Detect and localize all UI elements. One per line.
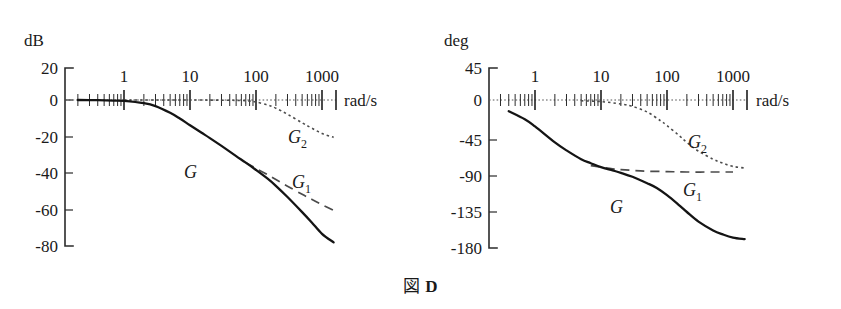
phase-curve-g2 bbox=[581, 101, 744, 168]
phase-xtick-label-1: 1 bbox=[531, 67, 540, 86]
magnitude-xtick-label-100: 100 bbox=[243, 67, 269, 86]
magnitude-curve-g1 bbox=[246, 163, 334, 211]
phase-plot-panel: deg 45 0 -45 -90 -135 -180 1 10 100 1000 bbox=[420, 0, 840, 280]
phase-xtick-label-1000: 1000 bbox=[716, 67, 750, 86]
magnitude-ytick-label-m40: -40 bbox=[35, 164, 58, 183]
phase-ytick-label-m45: -45 bbox=[459, 131, 482, 150]
phase-y-axis bbox=[489, 68, 497, 248]
magnitude-label-g2: G2 bbox=[288, 127, 307, 151]
magnitude-plot-panel: dB 20 0 -20 -40 -60 -80 1 10 100 1000 bbox=[0, 0, 420, 280]
magnitude-ytick-label-0: 0 bbox=[50, 91, 59, 110]
magnitude-label-g1: G1 bbox=[292, 172, 311, 196]
magnitude-x-unit-label: rad/s bbox=[344, 91, 377, 110]
magnitude-y-ticks bbox=[65, 100, 73, 210]
phase-ytick-label-0: 0 bbox=[474, 91, 483, 110]
phase-x-unit-label: rad/s bbox=[756, 91, 789, 110]
phase-label-g2: G2 bbox=[688, 132, 707, 156]
magnitude-xtick-label-10: 10 bbox=[182, 67, 199, 86]
magnitude-label-g: G bbox=[184, 162, 197, 182]
bode-figure: dB 20 0 -20 -40 -60 -80 1 10 100 1000 bbox=[0, 0, 841, 309]
phase-plot-svg: deg 45 0 -45 -90 -135 -180 1 10 100 1000 bbox=[420, 0, 840, 280]
phase-ytick-label-45: 45 bbox=[465, 59, 482, 78]
phase-y-unit-label: deg bbox=[444, 31, 469, 50]
magnitude-ytick-label-m60: -60 bbox=[35, 201, 58, 220]
phase-ytick-label-m90: -90 bbox=[459, 167, 482, 186]
magnitude-xtick-label-1000: 1000 bbox=[305, 67, 339, 86]
phase-ytick-label-m180: -180 bbox=[451, 239, 482, 258]
figure-caption-id: D bbox=[425, 277, 438, 296]
magnitude-ytick-label-m20: -20 bbox=[35, 128, 58, 147]
magnitude-ytick-label-m80: -80 bbox=[35, 237, 58, 256]
magnitude-ytick-label-20: 20 bbox=[41, 59, 58, 78]
phase-y-ticks bbox=[489, 140, 497, 212]
magnitude-xtick-label-1: 1 bbox=[120, 67, 129, 86]
phase-curve-g bbox=[509, 111, 745, 239]
phase-label-g1: G1 bbox=[683, 180, 702, 204]
figure-caption: 図D bbox=[0, 272, 841, 297]
phase-xtick-label-100: 100 bbox=[654, 67, 680, 86]
magnitude-plot-svg: dB 20 0 -20 -40 -60 -80 1 10 100 1000 bbox=[0, 0, 420, 280]
phase-ytick-label-m135: -135 bbox=[451, 203, 482, 222]
figure-caption-mark: 図 bbox=[403, 276, 421, 296]
magnitude-y-unit-label: dB bbox=[24, 31, 44, 50]
magnitude-y-axis bbox=[65, 68, 73, 246]
phase-xtick-label-10: 10 bbox=[593, 67, 610, 86]
phase-label-g: G bbox=[610, 197, 623, 217]
